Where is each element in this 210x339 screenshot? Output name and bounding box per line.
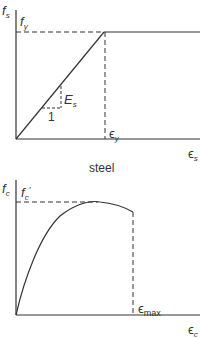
concrete-peak-stress-label: fc′ bbox=[21, 186, 30, 199]
slope-run-label: 1 bbox=[48, 111, 55, 123]
steel-diagram bbox=[16, 10, 200, 139]
concrete-x-axis-label: ϵc bbox=[188, 321, 198, 337]
steel-x-axis-label: ϵs bbox=[188, 145, 198, 161]
max-strain-label: ϵmax bbox=[138, 300, 161, 316]
yield-strain-label: ϵy bbox=[109, 125, 119, 141]
concrete-stress-curve bbox=[16, 202, 133, 315]
concrete-diagram bbox=[16, 180, 200, 315]
steel-elastic-line bbox=[16, 32, 104, 139]
concrete-y-axis-label: fc bbox=[2, 182, 10, 195]
steel-caption: steel bbox=[89, 162, 114, 174]
modulus-label: Es bbox=[64, 93, 77, 106]
steel-y-axis-label: fs bbox=[2, 4, 10, 17]
yield-stress-label: fy bbox=[20, 15, 28, 28]
